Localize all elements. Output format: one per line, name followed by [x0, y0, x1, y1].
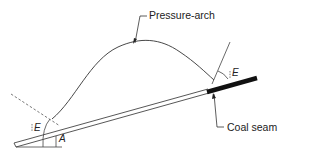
coal-seam-arrow-icon: [212, 93, 216, 99]
angle-e-right-label: E: [232, 68, 239, 78]
coal-seam-bar: [207, 78, 257, 92]
angle-e-right-arc: [218, 71, 228, 79]
pressure-arch-label: Pressure-arch: [149, 10, 215, 21]
angle-a-label: A: [59, 134, 66, 144]
pressure-arch-curve: [52, 40, 214, 119]
coal-seam-leader: [214, 94, 224, 127]
angle-e-left-label: E: [34, 123, 41, 133]
coal-seam-label: Coal seam: [227, 122, 277, 133]
